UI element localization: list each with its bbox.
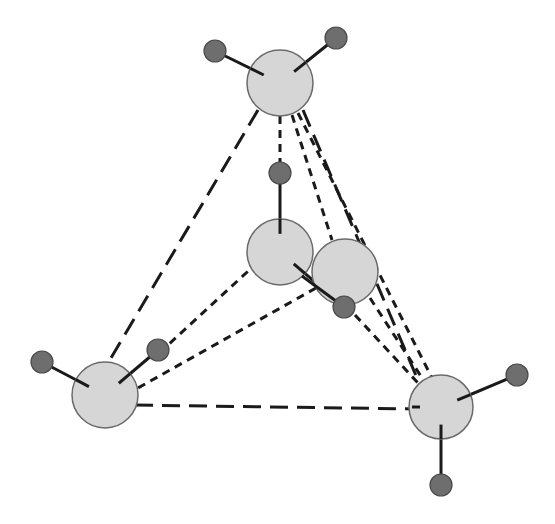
hydrogen-atom-top-h2 bbox=[325, 27, 347, 49]
hydrogen-bond-short-3 bbox=[168, 262, 258, 345]
oxygen-atoms bbox=[72, 50, 473, 439]
oxygen-atom-top bbox=[247, 50, 313, 116]
hydrogen-bond-short-1 bbox=[292, 115, 332, 240]
hydrogen-bond-long-1 bbox=[135, 405, 420, 409]
hydrogen-atom-bottom-left-h1 bbox=[31, 351, 53, 373]
hydrogen-atom-bottom-right-h1 bbox=[506, 364, 528, 386]
hydrogen-atom-bottom-left-h2 bbox=[147, 339, 169, 361]
hydrogen-bond-long-0 bbox=[108, 110, 258, 363]
hydrogen-atom-top-h1 bbox=[204, 40, 226, 62]
oxygen-atom-center-right bbox=[312, 239, 378, 305]
hydrogen-atom-bottom-right-h2 bbox=[430, 474, 452, 496]
hydrogen-bond-short-4 bbox=[138, 288, 316, 388]
oxygen-atom-bottom-left bbox=[72, 362, 138, 428]
water-tetrahedron-diagram bbox=[0, 0, 555, 524]
hydrogen-atom-center-left-h1 bbox=[269, 162, 291, 184]
hydrogen-atom-center-left-h2 bbox=[333, 296, 355, 318]
